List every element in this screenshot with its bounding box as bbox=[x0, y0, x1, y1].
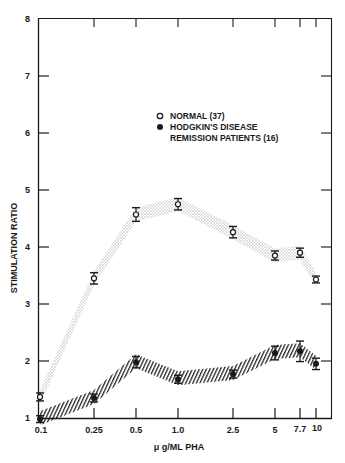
y-tick-label: 8 bbox=[25, 14, 30, 24]
legend-label-hodgkin-line1: HODGKIN'S DISEASE bbox=[170, 122, 258, 132]
x-tick-label: 7.7 bbox=[294, 424, 307, 434]
filled-circle-icon bbox=[91, 395, 97, 401]
y-tick-label: 1 bbox=[25, 413, 30, 423]
y-axis-title: STIMULATION RATIO bbox=[9, 203, 19, 294]
y-tick-label: 5 bbox=[25, 185, 30, 195]
y-tick-label: 2 bbox=[25, 356, 30, 366]
legend-label-hodgkin-line2: REMISSION PATIENTS (16) bbox=[170, 133, 278, 143]
open-circle-icon bbox=[176, 202, 181, 207]
plot-frame bbox=[38, 18, 332, 419]
legend: NORMAL (37) HODGKIN'S DISEASE REMISSION … bbox=[157, 111, 278, 143]
y-tick-label: 3 bbox=[25, 299, 30, 309]
x-axis-title: μ g/ML PHA bbox=[154, 442, 205, 452]
legend-label-normal: NORMAL (37) bbox=[170, 111, 225, 121]
x-tick-labels: 0.1 0.25 0.5 1.0 2.5 5 7.7 10 bbox=[35, 423, 322, 435]
y-tick-label: 4 bbox=[25, 242, 30, 252]
filled-circle-icon bbox=[133, 359, 139, 365]
open-circle-icon bbox=[38, 394, 43, 399]
open-circle-icon bbox=[314, 277, 319, 282]
x-tick-label: 0.1 bbox=[35, 425, 48, 435]
open-circle-icon bbox=[92, 276, 97, 281]
filled-circle-icon bbox=[157, 124, 163, 130]
open-circle-icon bbox=[134, 212, 139, 217]
filled-circle-icon bbox=[230, 371, 236, 377]
filled-circle-icon bbox=[272, 350, 278, 356]
x-tick-label: 10 bbox=[312, 423, 322, 433]
filled-circle-icon bbox=[313, 361, 319, 367]
open-circle-icon bbox=[273, 253, 278, 258]
x-tick-label: 0.25 bbox=[85, 425, 103, 435]
x-tick-label: 1.0 bbox=[172, 425, 185, 435]
y-tick-labels: 1 2 3 4 5 6 7 8 bbox=[25, 14, 30, 423]
open-circle-icon bbox=[231, 230, 236, 235]
legend-item-normal: NORMAL (37) bbox=[157, 111, 224, 121]
x-tick-label: 5 bbox=[272, 425, 277, 435]
filled-circle-icon bbox=[297, 348, 303, 354]
legend-item-hodgkin: HODGKIN'S DISEASE REMISSION PATIENTS (16… bbox=[157, 122, 278, 143]
open-circle-icon bbox=[298, 250, 303, 255]
x-tick-label: 0.5 bbox=[130, 425, 143, 435]
y-tick-label: 6 bbox=[25, 128, 30, 138]
x-tick-label: 2.5 bbox=[227, 425, 240, 435]
y-tick-label: 7 bbox=[25, 71, 30, 81]
open-circle-icon bbox=[157, 113, 162, 118]
filled-circle-icon bbox=[37, 416, 43, 422]
filled-circle-icon bbox=[175, 376, 181, 382]
stimulation-ratio-chart: 1 2 3 4 5 6 7 8 0.1 0.25 0.5 1.0 2.5 5 7… bbox=[0, 0, 345, 463]
normal-series-points bbox=[36, 199, 320, 401]
